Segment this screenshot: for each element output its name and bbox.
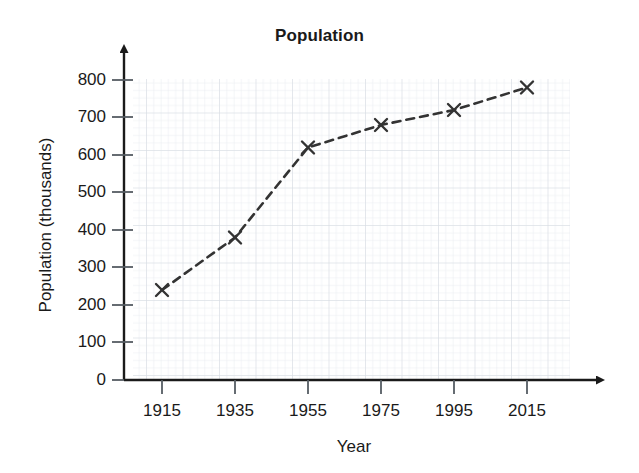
grid-background [133, 79, 570, 380]
x-tick-label: 1935 [216, 401, 254, 420]
x-tick-labels: 1915 1935 1955 1975 1995 2015 [143, 401, 546, 420]
x-tick-label: 2015 [508, 401, 546, 420]
x-tick-label: 1995 [435, 401, 473, 420]
y-tick-label: 200 [78, 295, 106, 314]
y-tick-label: 100 [78, 332, 106, 351]
x-tick-label: 1955 [289, 401, 327, 420]
y-axis [112, 52, 133, 380]
y-tick-label: 300 [78, 257, 106, 276]
y-tick-label: 500 [78, 182, 106, 201]
y-tick-label: 800 [78, 70, 106, 89]
x-tick-label: 1915 [143, 401, 181, 420]
y-tick-label: 400 [78, 220, 106, 239]
y-tick-labels: 800 700 600 500 400 300 200 100 0 [78, 70, 106, 389]
y-tick-label: 0 [97, 370, 106, 389]
y-tick-label: 600 [78, 145, 106, 164]
x-tick-label: 1975 [362, 401, 400, 420]
y-tick-label: 700 [78, 107, 106, 126]
x-axis [124, 380, 597, 394]
chart-figure: Population Population (thousands) Year [0, 0, 639, 473]
plot-area: 800 700 600 500 400 300 200 100 0 1915 1… [0, 0, 639, 473]
